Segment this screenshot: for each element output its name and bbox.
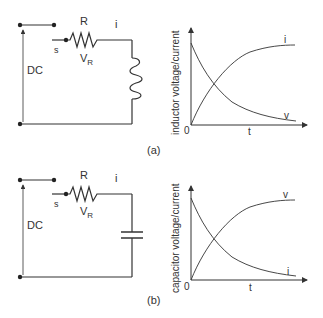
current-label: i (115, 18, 117, 30)
x-label: t (248, 126, 251, 137)
terminals-a (18, 23, 68, 126)
caption-b: (b) (147, 294, 160, 306)
graph-b-ylabel: capacitor voltage/current (170, 183, 181, 293)
x-label: t (249, 282, 252, 293)
falling-label: i (287, 266, 289, 277)
inductor-icon (130, 58, 142, 99)
graph-a (191, 28, 307, 125)
dc-label: DC (27, 219, 43, 231)
switch-label: s (54, 199, 59, 209)
caption-a: (a) (147, 144, 160, 156)
origin-label: 0 (184, 125, 190, 136)
resistor-label: R (80, 15, 88, 27)
rising-curve-v (191, 200, 295, 280)
dc-label: DC (27, 64, 43, 76)
origin-label: 0 (184, 281, 190, 292)
resistor-label: R (80, 169, 88, 181)
graph-b (191, 186, 307, 280)
vr-label: VR (80, 205, 93, 220)
vr-label: VR (80, 52, 93, 67)
rising-label: v (283, 189, 288, 200)
switch-label: s (54, 45, 59, 55)
rising-curve-i (191, 45, 295, 125)
rl-rc-diagram: DC s R VR i (a) inductor voltage/current… (0, 0, 323, 318)
current-label: i (115, 172, 117, 184)
graph-a-ylabel: inductor voltage/current (170, 30, 181, 135)
terminals-b (18, 178, 68, 279)
rising-label: i (284, 34, 286, 45)
falling-label: v (284, 110, 289, 121)
resistor-icon (66, 187, 132, 201)
resistor-icon (66, 33, 132, 47)
